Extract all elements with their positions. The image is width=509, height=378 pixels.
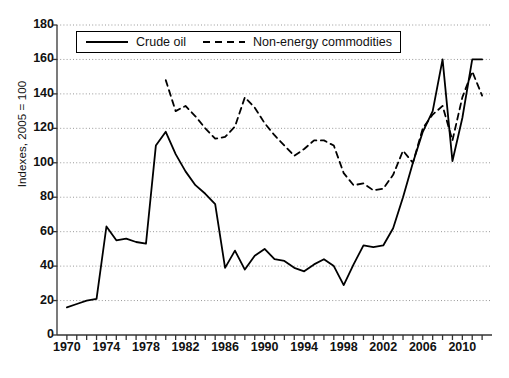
x-tick-label: 2006 [409, 341, 437, 354]
plot-area [0, 0, 509, 378]
legend-item-crude-oil: Crude oil [85, 35, 186, 49]
chart-legend: Crude oil Non-energy commodities [76, 31, 401, 53]
x-tick-label: 2002 [369, 341, 397, 354]
series-line-crude-oil [67, 59, 482, 307]
x-tick-label: 1970 [53, 341, 81, 354]
x-tick-label: 1990 [251, 341, 279, 354]
x-tick-label: 1982 [172, 341, 200, 354]
x-tick-label: 1994 [290, 341, 318, 354]
legend-label-non-energy-commodities: Non-energy commodities [253, 35, 392, 49]
x-tick-label: 1998 [330, 341, 358, 354]
axis-lines [57, 25, 492, 335]
legend-item-non-energy-commodities: Non-energy commodities [202, 35, 392, 49]
data-series [67, 59, 482, 307]
x-axis-tick-labels: 1970197419781982198619901994199820022006… [0, 341, 509, 361]
legend-swatch-solid-line [85, 36, 129, 48]
x-tick-label: 1974 [93, 341, 121, 354]
legend-label-crude-oil: Crude oil [136, 35, 186, 49]
x-tick-label: 2010 [448, 341, 476, 354]
legend-swatch-dashed-line [202, 36, 246, 48]
x-tick-label: 1978 [132, 341, 160, 354]
x-tick-label: 1986 [211, 341, 239, 354]
series-line-non-energy-commodities [166, 72, 482, 191]
commodity-price-index-chart: Indexes, 2005 = 100 02040608010012014016… [0, 0, 509, 378]
